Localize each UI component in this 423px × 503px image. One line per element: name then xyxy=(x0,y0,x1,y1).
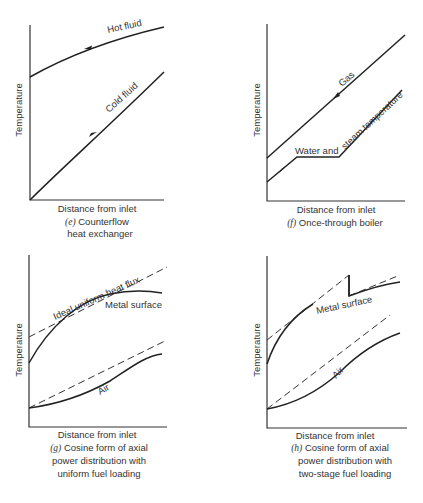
water-label: Water and xyxy=(295,145,338,156)
panel-e-xlabel: Distance from inlet xyxy=(58,203,137,214)
panel-h-caption-line1: (h) Cosine form of axial xyxy=(291,442,389,454)
panel-g-uniform-fuel-loading: Temperature Distance from inlet Ideal un… xyxy=(13,255,167,479)
metal-surface-label: Metal surface xyxy=(105,299,162,310)
hot-fluid-curve xyxy=(30,27,164,77)
air-label: Air xyxy=(96,381,112,396)
panel-e-counterflow: Temperature Distance from inlet Hot flui… xyxy=(13,17,164,239)
panel-f-caption: (f) Once-through boiler xyxy=(287,217,383,229)
panel-h-caption-line2: power distribution with xyxy=(298,455,392,466)
panel-f-once-through-boiler: Temperature Distance from inlet Gas Wate… xyxy=(251,24,405,229)
air-ideal-dashed-line xyxy=(29,340,167,408)
panel-g-caption-line1: (g) Cosine form of axial xyxy=(50,442,148,454)
gas-label: Gas xyxy=(336,69,357,89)
panel-e-ylabel: Temperature xyxy=(13,83,24,136)
panel-g-xlabel: Distance from inlet xyxy=(58,429,137,440)
arrow-up-right-icon xyxy=(279,167,285,173)
panel-g-axes xyxy=(29,255,167,427)
hot-fluid-label: Hot fluid xyxy=(106,17,142,35)
cold-fluid-label: Cold fluid xyxy=(103,80,140,115)
panel-e-axes xyxy=(30,25,164,200)
metal-surface-curve-stage1 xyxy=(267,304,313,364)
panel-g-caption-line3: uniform fuel loading xyxy=(58,468,141,479)
steam-temperature-label: steam temperature xyxy=(339,89,405,151)
figure: Temperature Distance from inlet Hot flui… xyxy=(0,0,423,503)
metal-surface-label: Metal surface xyxy=(315,293,373,316)
panel-h-xlabel: Distance from inlet xyxy=(296,430,375,441)
panel-h-axes xyxy=(267,256,407,428)
panel-h-caption-line3: two-stage fuel loading xyxy=(299,468,391,479)
air-curve xyxy=(29,354,162,408)
panel-e-caption-line2: heat exchanger xyxy=(67,228,133,239)
panel-g-ylabel: Temperature xyxy=(13,323,24,376)
cold-fluid-curve xyxy=(30,72,164,200)
panel-h-two-stage-fuel-loading: Temperature Distance from inlet Metal su… xyxy=(251,256,407,479)
arrow-left-icon xyxy=(84,46,92,50)
panel-g-caption-line2: power distribution with xyxy=(52,455,146,466)
panel-f-ylabel: Temperature xyxy=(251,83,262,136)
panel-e-caption-line1: (e) Counterflow xyxy=(65,216,129,228)
panel-f-xlabel: Distance from inlet xyxy=(297,204,376,215)
panel-h-ylabel: Temperature xyxy=(251,323,262,376)
